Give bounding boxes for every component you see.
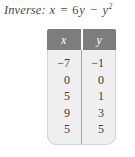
table-cell: −1 bbox=[82, 55, 115, 72]
table-body: −7 0 5 9 5 −1 0 1 3 5 bbox=[47, 50, 116, 145]
table-cell: −7 bbox=[48, 55, 81, 72]
values-table: x y −7 0 5 9 5 −1 0 1 3 5 bbox=[47, 29, 116, 145]
column-header-y: y bbox=[83, 29, 117, 50]
table-cell: 5 bbox=[48, 121, 81, 138]
table-column-x: −7 0 5 9 5 bbox=[48, 50, 82, 144]
table-cell: 5 bbox=[48, 88, 81, 105]
table-cell: 0 bbox=[48, 72, 81, 89]
equation-caption: Inverse: x = 6y − y2 bbox=[4, 3, 112, 18]
caption-term2-exponent: 2 bbox=[109, 2, 113, 11]
table-cell: 0 bbox=[82, 72, 115, 89]
caption-term1-var: y bbox=[79, 3, 86, 17]
caption-coefficient: 6 bbox=[72, 3, 78, 17]
caption-equals: = bbox=[59, 3, 69, 17]
caption-lhs: x bbox=[49, 3, 56, 17]
table-cell: 5 bbox=[82, 121, 115, 138]
caption-term2-var: y bbox=[102, 3, 109, 17]
caption-label: Inverse: bbox=[4, 3, 46, 17]
column-header-x: x bbox=[47, 29, 81, 50]
table-column-y: −1 0 1 3 5 bbox=[82, 50, 115, 144]
table-cell: 3 bbox=[82, 105, 115, 122]
table-header-row: x y bbox=[47, 29, 116, 50]
table-cell: 1 bbox=[82, 88, 115, 105]
table-cell: 9 bbox=[48, 105, 81, 122]
caption-minus: − bbox=[89, 3, 99, 17]
